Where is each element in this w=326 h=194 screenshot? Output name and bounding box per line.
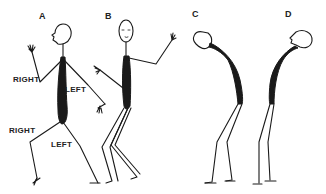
figure-b-label: B — [105, 11, 112, 21]
figure-a-label: A — [39, 11, 46, 21]
label-right-leg: RIGHT — [9, 126, 35, 135]
label-left-leg: LEFT — [51, 140, 72, 149]
figure-d: D — [253, 9, 312, 184]
figure-d-label: D — [285, 9, 292, 19]
figure-a: A RIGHT LEFT RIGHT LEFT — [9, 11, 105, 185]
label-right-arm: RIGHT — [13, 75, 39, 84]
figure-c-label: C — [192, 9, 199, 19]
illustration: A RIGHT LEFT RIGHT LEFT B — [0, 0, 326, 194]
figure-b: B — [94, 11, 176, 183]
label-left-arm: LEFT — [65, 85, 86, 94]
figure-c: C — [192, 9, 243, 183]
